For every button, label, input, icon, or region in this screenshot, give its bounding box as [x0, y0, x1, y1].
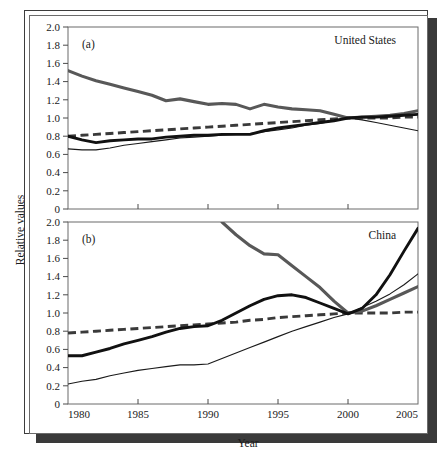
- series-gray-thick: [68, 71, 418, 118]
- series-black-thick: [68, 114, 418, 142]
- y-tick-label: 1.8: [46, 234, 60, 246]
- x-axis-label: Year: [237, 437, 258, 449]
- y-tick-label: 1.8: [46, 39, 60, 51]
- y-tick-label: 1.6: [46, 57, 60, 69]
- y-tick-label: 1.6: [46, 252, 60, 264]
- y-tick-label: 1.4: [46, 270, 60, 282]
- region-name-label: United States: [334, 34, 396, 46]
- y-tick-label: 0.4: [46, 361, 60, 373]
- x-tick-label: 2005: [396, 408, 419, 420]
- panel-tag-label: (a): [82, 38, 95, 51]
- panel-tag-label: (b): [82, 233, 96, 246]
- y-tick-label: 0: [55, 203, 61, 215]
- x-tick-label: 1995: [267, 408, 290, 420]
- x-tick-label: 1980: [68, 408, 91, 420]
- y-tick-label: 1.0: [46, 112, 60, 124]
- y-tick-label: 0.6: [46, 343, 60, 355]
- y-tick-label: 0: [55, 398, 61, 410]
- panel-china: 00.20.40.60.81.01.21.41.61.82.0198019851…: [46, 216, 418, 420]
- region-name-label: China: [369, 229, 396, 241]
- x-tick-label: 1985: [127, 408, 150, 420]
- series-group: [68, 71, 418, 150]
- y-tick-label: 0.6: [46, 148, 60, 160]
- y-tick-label: 0.4: [46, 166, 60, 178]
- y-tick-label: 0.2: [46, 380, 60, 392]
- series-black-thick: [68, 228, 418, 355]
- y-tick-label: 0.8: [46, 130, 60, 142]
- panel-united-states: 00.20.40.60.81.01.21.41.61.82.0(a)United…: [46, 21, 418, 215]
- series-dashed: [68, 312, 418, 333]
- y-tick-label: 1.0: [46, 307, 60, 319]
- y-tick-label: 0.2: [46, 185, 60, 197]
- y-tick-label: 1.2: [46, 289, 60, 301]
- panel-frame: [68, 222, 418, 404]
- y-tick-label: 2.0: [46, 21, 60, 33]
- figure-container: 00.20.40.60.81.01.21.41.61.82.0(a)United…: [0, 0, 443, 461]
- y-tick-label: 1.4: [46, 75, 60, 87]
- y-axis-label: Relative values: [14, 194, 26, 265]
- y-tick-label: 0.8: [46, 325, 60, 337]
- series-group: [68, 222, 418, 384]
- y-tick-label: 2.0: [46, 216, 60, 228]
- x-tick-label: 2000: [337, 408, 360, 420]
- x-tick-label: 1990: [197, 408, 220, 420]
- y-tick-label: 1.2: [46, 94, 60, 106]
- chart-svg: 00.20.40.60.81.01.21.41.61.82.0(a)United…: [0, 0, 443, 461]
